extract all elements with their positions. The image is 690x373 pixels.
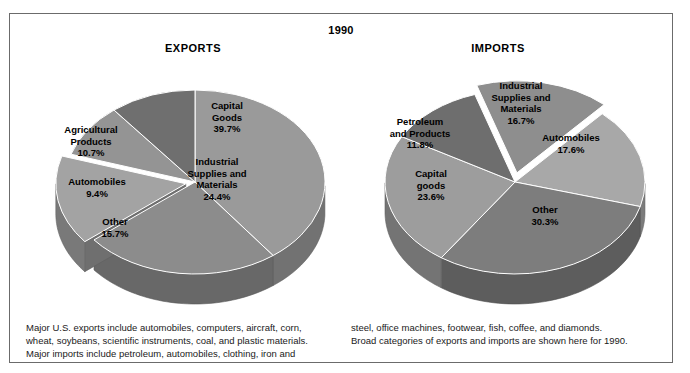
- caption-line: Broad categories of exports and imports …: [351, 334, 658, 347]
- pie-imports-svg: [365, 64, 665, 319]
- caption: Major U.S. exports include automobiles, …: [26, 321, 658, 360]
- caption-line: Major imports include petroleum, automob…: [26, 347, 333, 360]
- caption-line: Major U.S. exports include automobiles, …: [26, 321, 333, 334]
- chart-heading-exports: EXPORTS: [123, 42, 263, 54]
- chart-heading-imports: IMPORTS: [428, 42, 568, 54]
- pie-exports-svg: [45, 64, 345, 319]
- caption-column-right: steel, office machines, footwear, fish, …: [351, 321, 658, 360]
- caption-line: wheat, soybeans, scientific instruments,…: [26, 334, 333, 347]
- year-title: 1990: [10, 24, 672, 36]
- caption-line: steel, office machines, footwear, fish, …: [351, 321, 658, 334]
- pie-chart-imports: Industrial Supplies and Materials 16.7% …: [365, 64, 665, 319]
- figure-frame: 1990 EXPORTS IMPORTS Capital Goods 39.7%…: [9, 13, 673, 363]
- caption-column-left: Major U.S. exports include automobiles, …: [26, 321, 333, 360]
- pie-chart-exports: Capital Goods 39.7% Industrial Supplies …: [45, 64, 345, 319]
